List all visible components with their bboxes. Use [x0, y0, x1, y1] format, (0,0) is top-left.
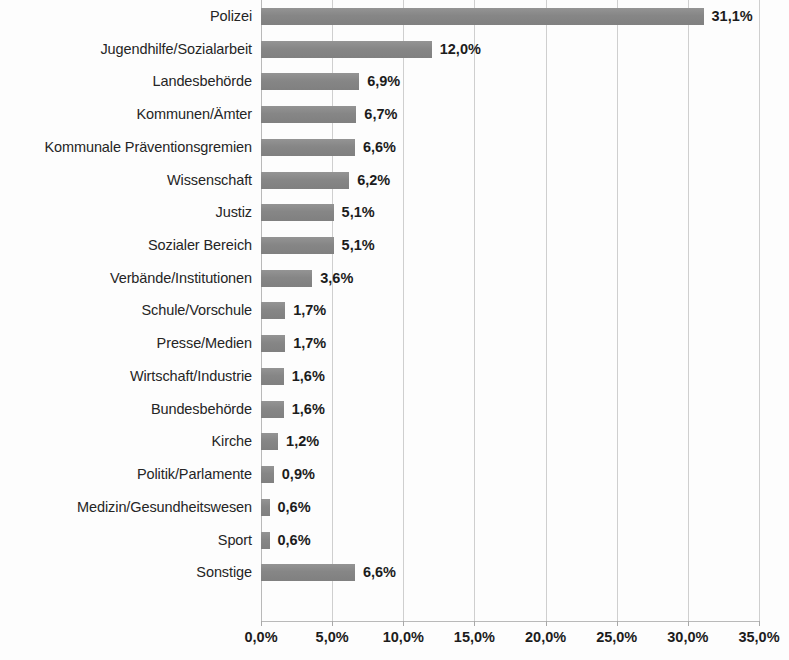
bar	[261, 499, 270, 516]
category-label: Schule/Vorschule	[0, 302, 252, 319]
bar	[261, 433, 278, 450]
category-label: Kommunale Präventionsgremien	[0, 139, 252, 156]
bar-row: Sonstige6,6%	[0, 564, 789, 597]
tick-mark	[688, 621, 689, 626]
bar	[261, 564, 355, 581]
bar-row: Bundesbehörde1,6%	[0, 401, 789, 434]
bar	[261, 106, 356, 123]
bar	[261, 73, 359, 90]
bar	[261, 172, 349, 189]
bar-row: Sport0,6%	[0, 532, 789, 565]
bar-row: Jugendhilfe/Sozialarbeit12,0%	[0, 41, 789, 74]
x-tick-label: 35,0%	[719, 629, 789, 645]
category-label: Polizei	[0, 8, 252, 25]
bar-value-label: 1,2%	[286, 433, 319, 450]
bar	[261, 302, 285, 319]
bar-value-label: 6,7%	[364, 106, 397, 123]
category-label: Sport	[0, 532, 252, 549]
x-axis-line	[261, 621, 760, 622]
bar-value-label: 5,1%	[342, 237, 375, 254]
category-label: Sozialer Bereich	[0, 237, 252, 254]
category-label: Medizin/Gesundheitswesen	[0, 499, 252, 516]
category-label: Justiz	[0, 204, 252, 221]
tick-mark	[546, 621, 547, 626]
bar	[261, 8, 704, 25]
bar-value-label: 0,9%	[282, 466, 315, 483]
bar-value-label: 12,0%	[440, 41, 481, 58]
bar	[261, 335, 285, 352]
bar-row: Medizin/Gesundheitswesen0,6%	[0, 499, 789, 532]
bar-row: Sozialer Bereich5,1%	[0, 237, 789, 270]
bar-row: Schule/Vorschule1,7%	[0, 302, 789, 335]
x-tick-label: 15,0%	[434, 629, 514, 645]
x-tick-label: 20,0%	[506, 629, 586, 645]
bar-value-label: 31,1%	[712, 8, 753, 25]
bar-row: Wirtschaft/Industrie1,6%	[0, 368, 789, 401]
bar-row: Justiz5,1%	[0, 204, 789, 237]
bar-row: Kommunen/Ämter6,7%	[0, 106, 789, 139]
bar-row: Presse/Medien1,7%	[0, 335, 789, 368]
category-label: Presse/Medien	[0, 335, 252, 352]
bar-value-label: 6,9%	[367, 73, 400, 90]
bar	[261, 237, 334, 254]
x-tick-label: 0,0%	[221, 629, 301, 645]
bar-value-label: 6,6%	[363, 564, 396, 581]
bar-value-label: 1,6%	[292, 368, 325, 385]
category-label: Wissenschaft	[0, 172, 252, 189]
tick-mark	[759, 621, 760, 626]
tick-mark	[474, 621, 475, 626]
bar-row: Kommunale Präventionsgremien6,6%	[0, 139, 789, 172]
bar	[261, 204, 334, 221]
tick-mark	[332, 621, 333, 626]
bar	[261, 401, 284, 418]
x-tick-label: 30,0%	[648, 629, 728, 645]
bar-value-label: 6,2%	[357, 172, 390, 189]
category-label: Landesbehörde	[0, 73, 252, 90]
bar-value-label: 3,6%	[320, 270, 353, 287]
bar	[261, 368, 284, 385]
category-label: Kirche	[0, 433, 252, 450]
bar	[261, 139, 355, 156]
bar-value-label: 6,6%	[363, 139, 396, 156]
x-tick-label: 5,0%	[292, 629, 372, 645]
bar-value-label: 1,6%	[292, 401, 325, 418]
bar-value-label: 1,7%	[293, 302, 326, 319]
bar-row: Politik/Parlamente0,9%	[0, 466, 789, 499]
x-tick-label: 25,0%	[577, 629, 657, 645]
category-label: Politik/Parlamente	[0, 466, 252, 483]
tick-mark	[261, 621, 262, 626]
bar-value-label: 5,1%	[342, 204, 375, 221]
bar	[261, 532, 270, 549]
bar	[261, 466, 274, 483]
bar	[261, 41, 432, 58]
bar-row: Verbände/Institutionen3,6%	[0, 270, 789, 303]
bar-value-label: 0,6%	[278, 499, 311, 516]
bar-row: Wissenschaft6,2%	[0, 172, 789, 205]
x-tick-label: 10,0%	[363, 629, 443, 645]
tick-mark	[617, 621, 618, 626]
bar-row: Kirche1,2%	[0, 433, 789, 466]
category-label: Bundesbehörde	[0, 401, 252, 418]
bar-row: Landesbehörde6,9%	[0, 73, 789, 106]
category-label: Jugendhilfe/Sozialarbeit	[0, 41, 252, 58]
bar-row: Polizei31,1%	[0, 8, 789, 41]
category-label: Verbände/Institutionen	[0, 270, 252, 287]
bar-value-label: 0,6%	[278, 532, 311, 549]
category-label: Wirtschaft/Industrie	[0, 368, 252, 385]
category-label: Kommunen/Ämter	[0, 106, 252, 123]
bar-value-label: 1,7%	[293, 335, 326, 352]
bar	[261, 270, 312, 287]
tick-mark	[403, 621, 404, 626]
bar-chart: Polizei31,1%Jugendhilfe/Sozialarbeit12,0…	[0, 0, 789, 660]
category-label: Sonstige	[0, 564, 252, 581]
